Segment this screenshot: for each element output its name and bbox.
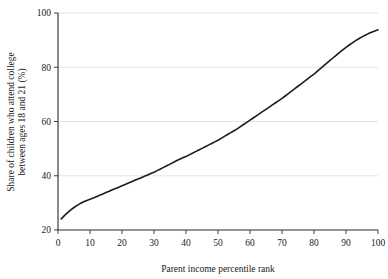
chart-figure: 0102030405060708090100 20406080100 Paren… [0, 0, 388, 279]
data-series-line [61, 30, 378, 219]
x-tick-label-40: 40 [181, 238, 191, 248]
y-tick-label-80: 80 [42, 63, 52, 73]
y-tick-label-60: 60 [42, 117, 52, 127]
x-tick-label-10: 10 [85, 238, 95, 248]
x-tick-label-30: 30 [149, 238, 159, 248]
x-tick-label-50: 50 [213, 238, 223, 248]
x-tick-label-20: 20 [117, 238, 127, 248]
x-tick-label-80: 80 [309, 238, 319, 248]
x-axis-title: Parent income percentile rank [161, 264, 275, 274]
x-tick-label-60: 60 [245, 238, 255, 248]
chart-plot-area: 0102030405060708090100 20406080100 Paren… [0, 0, 388, 279]
x-tick-labels: 0102030405060708090100 [56, 238, 386, 248]
gridlines-group [58, 13, 378, 176]
x-tick-label-90: 90 [341, 238, 351, 248]
y-axis-title-line-2: between ages 18 and 21 (%) [17, 68, 28, 175]
y-tick-label-100: 100 [37, 8, 52, 18]
x-tick-label-0: 0 [56, 238, 61, 248]
y-tick-labels: 20406080100 [37, 8, 52, 235]
y-tickmarks [54, 13, 58, 230]
y-axis-title-line-1: Share of children who attend college [6, 52, 16, 192]
x-tick-label-100: 100 [371, 238, 386, 248]
y-tick-label-20: 20 [42, 225, 52, 235]
x-tick-label-70: 70 [277, 238, 287, 248]
x-tickmarks [58, 230, 378, 234]
y-tick-label-40: 40 [42, 171, 52, 181]
